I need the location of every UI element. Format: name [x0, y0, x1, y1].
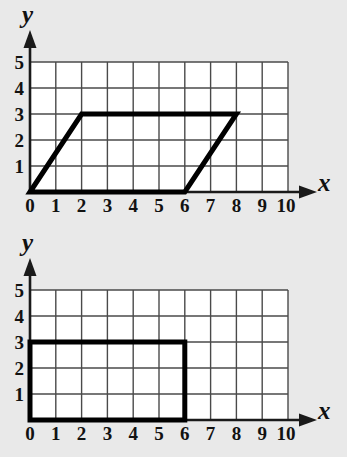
- x-tick-1: 1: [43, 196, 69, 215]
- y-tick-5: 5: [4, 281, 24, 300]
- x-tick-9: 9: [249, 424, 275, 443]
- x-axis-label: x: [318, 170, 331, 195]
- x-tick-9: 9: [249, 196, 275, 215]
- x-axis-label: x: [318, 398, 331, 423]
- x-tick-8: 8: [223, 424, 249, 443]
- coordinate-plane-rectangle: y x 0 1 2 3 4 5 6 7 8 9 10 5 4 3 2 1: [0, 228, 347, 456]
- x-tick-6: 6: [172, 196, 198, 215]
- x-axis-arrow-icon: [299, 414, 317, 427]
- coordinate-plane-parallelogram: y x 0 1 2 3 4 5 6 7 8 9 10 5 4 3 2 1: [0, 0, 347, 228]
- y-axis-arrow-icon: [24, 30, 37, 48]
- x-tick-1: 1: [43, 424, 69, 443]
- y-tick-2: 2: [4, 359, 24, 378]
- y-tick-1: 1: [4, 157, 24, 176]
- y-tick-4: 4: [4, 79, 24, 98]
- x-tick-10: 10: [273, 424, 299, 443]
- x-axis-arrow-icon: [299, 186, 317, 199]
- x-tick-0: 0: [17, 424, 43, 443]
- x-tick-3: 3: [94, 424, 120, 443]
- y-axis-label: y: [22, 230, 33, 255]
- x-tick-6: 6: [172, 424, 198, 443]
- x-tick-4: 4: [120, 196, 146, 215]
- x-tick-5: 5: [146, 196, 172, 215]
- x-tick-2: 2: [69, 424, 95, 443]
- y-tick-4: 4: [4, 307, 24, 326]
- x-tick-7: 7: [198, 424, 224, 443]
- y-tick-1: 1: [4, 385, 24, 404]
- x-tick-10: 10: [273, 196, 299, 215]
- y-tick-3: 3: [4, 105, 24, 124]
- x-tick-2: 2: [69, 196, 95, 215]
- x-tick-0: 0: [17, 196, 43, 215]
- x-tick-7: 7: [198, 196, 224, 215]
- x-tick-8: 8: [223, 196, 249, 215]
- x-tick-3: 3: [94, 196, 120, 215]
- y-axis-arrow-icon: [24, 258, 37, 276]
- y-tick-5: 5: [4, 53, 24, 72]
- y-axis-label: y: [22, 2, 33, 27]
- y-tick-2: 2: [4, 131, 24, 150]
- x-tick-5: 5: [146, 424, 172, 443]
- x-tick-4: 4: [120, 424, 146, 443]
- y-tick-3: 3: [4, 333, 24, 352]
